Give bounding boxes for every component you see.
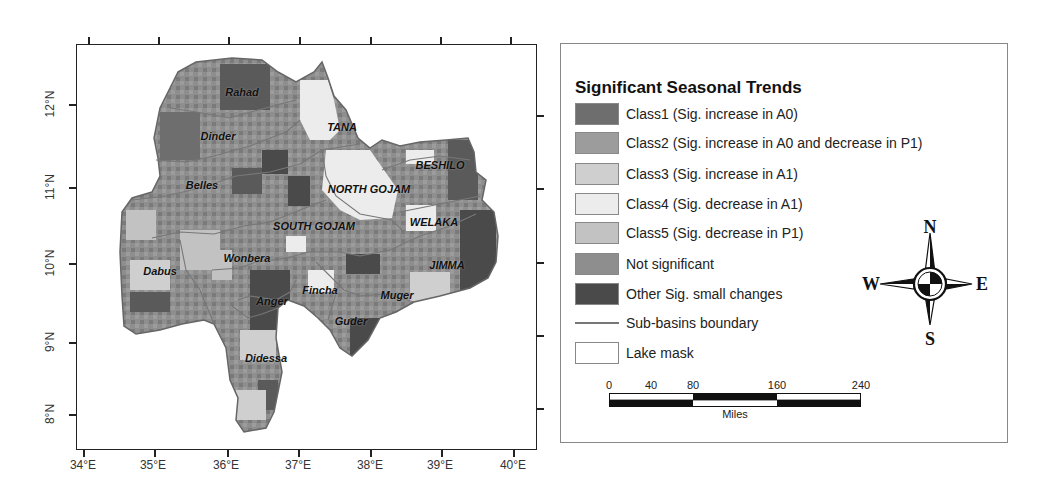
compass-north-label: N (924, 217, 937, 238)
basin-label-tana: TANA (327, 121, 357, 133)
legend-label: Lake mask (626, 345, 694, 361)
lon-label: 38°E (357, 458, 383, 472)
scale-unit-label: Miles (722, 408, 748, 420)
lat-tick-left (69, 414, 76, 416)
legend-item-not-significant: Not significant (575, 252, 714, 276)
lat-tick-right (537, 408, 544, 410)
lat-label: 12°N (43, 91, 57, 118)
legend-label: Class4 (Sig. decrease in A1) (626, 196, 803, 212)
lon-label: 37°E (285, 458, 311, 472)
lat-tick-right (537, 335, 544, 337)
lon-tick-top (370, 37, 372, 44)
basin-map (76, 44, 537, 450)
lat-tick-right (537, 188, 544, 190)
lat-tick-left (69, 263, 76, 265)
legend-swatch (575, 163, 619, 185)
legend-swatch (575, 103, 619, 125)
scale-tick-label: 160 (768, 379, 786, 391)
legend-swatch (575, 132, 619, 154)
legend-item-sub-basins-boundary: Sub-basins boundary (575, 311, 758, 335)
scale-tick-label: 80 (687, 379, 699, 391)
scale-tick-label: 240 (852, 379, 870, 391)
basin-label-south-gojam: SOUTH GOJAM (273, 220, 355, 232)
lon-label: 35°E (140, 458, 166, 472)
compass-south-label: S (925, 329, 935, 350)
lon-tick-bottom (83, 450, 85, 457)
basin-label-wonbera: Wonbera (224, 252, 271, 264)
lon-label: 39°E (427, 458, 453, 472)
legend-swatch (575, 222, 619, 244)
compass-west-label: W (862, 274, 880, 295)
lat-tick-left (69, 187, 76, 189)
scale-tick-label: 40 (645, 379, 657, 391)
basin-label-welaka: WELAKA (410, 216, 458, 228)
lon-label: 36°E (213, 458, 239, 472)
basin-label-dabus: Dabus (143, 265, 177, 277)
legend-item-lake-mask: Lake mask (575, 341, 694, 365)
lon-tick-bottom (513, 450, 515, 457)
legend-label: Sub-basins boundary (626, 315, 758, 331)
lat-label: 9°N (43, 332, 57, 352)
lon-tick-bottom (154, 450, 156, 457)
legend-item-class3: Class3 (Sig. increase in A1) (575, 162, 798, 186)
legend-title: Significant Seasonal Trends (575, 78, 802, 98)
basin-label-belles: Belles (186, 179, 218, 191)
basin-label-jimma: JIMMA (429, 259, 464, 271)
compass-east-label: E (976, 274, 988, 295)
lat-label: 11°N (43, 174, 57, 200)
lat-tick-right (537, 262, 544, 264)
legend-swatch (575, 193, 619, 215)
lon-tick-top (510, 37, 512, 44)
basin-label-dinder: Dinder (201, 130, 236, 142)
lon-tick-top (228, 37, 230, 44)
legend-item-class2: Class2 (Sig. increase in A0 and decrease… (575, 131, 923, 155)
legend-item-class1: Class1 (Sig. increase in A0) (575, 102, 798, 126)
legend-label: Other Sig. small changes (626, 286, 782, 302)
north-arrow-compass-icon: N S W E (870, 215, 990, 350)
legend-swatch (575, 283, 619, 305)
lon-tick-top (88, 37, 90, 44)
lat-tick-right (537, 115, 544, 117)
basin-label-anger: Anger (256, 295, 288, 307)
lat-label: 10°N (43, 250, 57, 277)
basin-label-fincha: Fincha (302, 284, 337, 296)
lat-tick-left (69, 104, 76, 106)
lon-tick-bottom (370, 450, 372, 457)
legend-label: Class5 (Sig. decrease in P1) (626, 225, 803, 241)
legend-label: Class2 (Sig. increase in A0 and decrease… (626, 135, 923, 151)
lat-tick-left (69, 342, 76, 344)
legend-label: Not significant (626, 256, 714, 272)
lon-tick-bottom (227, 450, 229, 457)
lon-label: 40°E (500, 458, 526, 472)
legend-line-swatch (575, 322, 619, 324)
legend-item-class4: Class4 (Sig. decrease in A1) (575, 192, 803, 216)
legend-label: Class3 (Sig. increase in A1) (626, 166, 798, 182)
scale-tick-label: 0 (606, 379, 612, 391)
lon-tick-top (440, 37, 442, 44)
lat-label: 8°N (43, 404, 57, 424)
lon-label: 34°E (70, 458, 96, 472)
basin-label-guder: Guder (335, 315, 367, 327)
basin-label-north-gojam: NORTH GOJAM (328, 183, 410, 195)
basin-label-muger: Muger (381, 289, 414, 301)
legend-item-class5: Class5 (Sig. decrease in P1) (575, 221, 803, 245)
lon-tick-top (158, 37, 160, 44)
basin-label-rahad: Rahad (225, 86, 259, 98)
legend-label: Class1 (Sig. increase in A0) (626, 106, 798, 122)
lon-tick-bottom (441, 450, 443, 457)
lon-tick-bottom (298, 450, 300, 457)
legend-swatch (575, 342, 619, 364)
legend-item-other-small-changes: Other Sig. small changes (575, 282, 782, 306)
lon-tick-top (299, 37, 301, 44)
basin-label-beshilo: BESHILO (416, 159, 465, 171)
basin-label-didessa: Didessa (245, 352, 287, 364)
scale-bar (609, 393, 861, 407)
legend-swatch (575, 253, 619, 275)
